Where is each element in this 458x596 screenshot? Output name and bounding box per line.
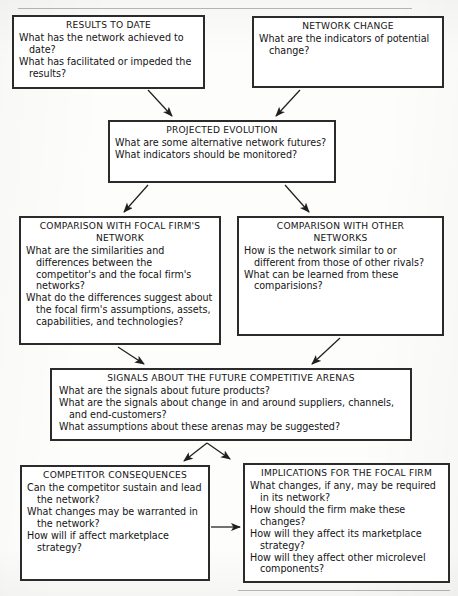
box-competitor-consequences: COMPETITOR CONSEQUENCES Can the competit…: [20, 465, 210, 581]
box-title: IMPLICATIONS FOR THE FOCAL FIRM: [250, 468, 443, 480]
box-network-change: NETWORK CHANGE What are the indicators o…: [252, 16, 444, 88]
box-question: What has the network achieved to date?: [19, 32, 198, 56]
box-title: RESULTS TO DATE: [19, 20, 198, 32]
box-question: What do the differences suggest about th…: [26, 292, 214, 328]
box-title: COMPETITOR CONSEQUENCES: [27, 470, 203, 482]
box-implications-for-the-focal-firm: IMPLICATIONS FOR THE FOCAL FIRM What cha…: [243, 463, 450, 583]
box-comparison-with-other-networks: COMPARISON WITH OTHER NETWORKS How is th…: [237, 216, 444, 336]
connector-results-to-projected: [148, 90, 172, 116]
box-question: How is the network similar to or differe…: [244, 245, 437, 269]
box-question: How will they affect other microlevel co…: [250, 552, 443, 576]
box-question: What changes, if any, may be required in…: [250, 480, 443, 504]
box-title: COMPARISON WITH OTHER NETWORKS: [244, 221, 437, 244]
box-question: What are the signals about change in and…: [57, 397, 405, 421]
box-question: What are some alternative network future…: [115, 137, 329, 149]
box-title: SIGNALS ABOUT THE FUTURE COMPETITIVE ARE…: [57, 373, 405, 385]
box-question: What are the indicators of potential cha…: [259, 33, 437, 57]
connector-compare-other-to-signals: [312, 338, 340, 364]
connector-signals-to-implications: [207, 443, 230, 459]
box-question: What are the signals about future produc…: [57, 385, 405, 397]
box-question: What has facilitated or impeded the resu…: [19, 56, 198, 80]
box-question: Can the competitor sustain and lead the …: [27, 482, 203, 506]
diagram-page: RESULTS TO DATE What has the network ach…: [0, 0, 458, 596]
box-results-to-date: RESULTS TO DATE What has the network ach…: [12, 15, 205, 89]
connector-compare-focal-to-signals: [118, 347, 144, 364]
connector-network-to-projected: [276, 90, 300, 116]
box-question: What changes may be warranted in the net…: [27, 506, 203, 530]
box-title: NETWORK CHANGE: [259, 21, 437, 33]
box-question: How should the firm make these changes?: [250, 504, 443, 528]
box-title: PROJECTED EVOLUTION: [115, 125, 329, 137]
box-question: What are the similarities and difference…: [26, 245, 214, 293]
box-question: How will they affect its marketplace str…: [250, 528, 443, 552]
connector-signals-to-competitor: [184, 443, 207, 461]
box-comparison-with-focal-firms-network: COMPARISON WITH FOCAL FIRM'S NETWORK Wha…: [19, 216, 221, 345]
connector-projected-to-compare-other: [285, 185, 309, 212]
connector-projected-to-compare-focal: [124, 185, 148, 212]
box-projected-evolution: PROJECTED EVOLUTION What are some altern…: [108, 120, 336, 183]
box-signals-about-the-future-competitive-arenas: SIGNALS ABOUT THE FUTURE COMPETITIVE ARE…: [50, 368, 412, 441]
box-title: COMPARISON WITH FOCAL FIRM'S NETWORK: [26, 221, 214, 244]
box-question: What indicators should be monitored?: [115, 149, 329, 161]
box-question: What can be learned from these comparisi…: [244, 269, 437, 293]
box-question: How will if affect marketplace strategy?: [27, 530, 203, 554]
box-question: What assumptions about these arenas may …: [57, 421, 405, 433]
